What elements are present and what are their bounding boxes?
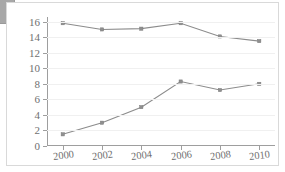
y-axis-label: 12 xyxy=(29,47,40,58)
y-axis-tick xyxy=(43,130,47,131)
gridline xyxy=(47,99,275,100)
y-axis-label: 2 xyxy=(35,125,41,136)
gridline xyxy=(47,115,275,116)
gridline xyxy=(47,130,275,131)
y-axis-tick xyxy=(43,115,47,116)
x-axis-label: 2000 xyxy=(52,149,74,162)
x-axis-label: 2002 xyxy=(92,149,114,162)
data-point-marker xyxy=(218,88,221,91)
x-axis-label: 2010 xyxy=(249,149,271,162)
x-axis-label: 2008 xyxy=(209,149,231,162)
y-axis-label: 0 xyxy=(35,141,41,152)
y-axis-label: 4 xyxy=(35,109,41,120)
y-axis-label: 8 xyxy=(35,78,41,89)
data-point-marker xyxy=(140,106,143,109)
x-axis-label: 2006 xyxy=(170,149,192,162)
data-point-marker xyxy=(258,39,261,42)
data-point-marker xyxy=(61,133,64,136)
series-line xyxy=(63,82,260,135)
gridline xyxy=(47,84,275,85)
y-axis-label: 14 xyxy=(29,32,40,43)
x-axis-label: 2004 xyxy=(131,149,153,162)
data-point-marker xyxy=(100,121,103,124)
gridline xyxy=(47,37,275,38)
y-axis-tick xyxy=(43,53,47,54)
y-axis-tick xyxy=(43,22,47,23)
y-axis-tick xyxy=(43,84,47,85)
y-axis-tick xyxy=(43,99,47,100)
y-axis-tick xyxy=(43,146,47,147)
y-axis-tick xyxy=(43,37,47,38)
gridline xyxy=(47,22,275,23)
data-point-marker xyxy=(179,80,182,83)
y-axis-label: 6 xyxy=(35,94,41,105)
chart-screenshot: 0246810121416200020022004200620082010 xyxy=(0,0,285,172)
y-axis-label: 10 xyxy=(29,63,40,74)
y-axis-label: 16 xyxy=(29,16,40,27)
series-line xyxy=(63,23,260,41)
gridline xyxy=(47,53,275,54)
y-axis-tick xyxy=(43,68,47,69)
plot-area: 0246810121416200020022004200620082010 xyxy=(47,17,275,146)
data-point-marker xyxy=(140,27,143,30)
data-point-marker xyxy=(100,28,103,31)
gridline xyxy=(47,68,275,69)
chart-panel: 0246810121416200020022004200620082010 xyxy=(6,2,279,166)
